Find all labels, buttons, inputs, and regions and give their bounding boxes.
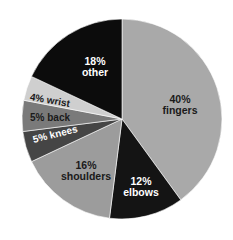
- label-back: 5% back: [30, 112, 70, 123]
- label-other-name: other: [70, 67, 120, 78]
- label-fingers-name: fingers: [150, 105, 210, 116]
- label-elbows-name: elbows: [116, 187, 166, 198]
- label-shoulders-name: shoulders: [56, 171, 116, 182]
- label-other: 18% other: [70, 56, 120, 78]
- label-elbows: 12% elbows: [116, 176, 166, 198]
- label-fingers: 40% fingers: [150, 94, 210, 116]
- label-shoulders: 16% shoulders: [56, 160, 116, 182]
